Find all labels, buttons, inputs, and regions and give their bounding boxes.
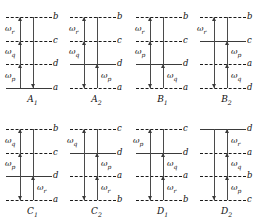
propagator-line-right: [33, 129, 34, 200]
energy-level-label-b: b: [53, 124, 58, 133]
panel-caption-b1: B1: [130, 94, 195, 106]
energy-level-label-d: d: [117, 148, 122, 157]
panel-caption-a1: A1: [0, 94, 65, 106]
frequency-label-omega-r: ωr: [37, 184, 46, 194]
omega-subscript: r: [44, 187, 47, 194]
energy-level-line-a: [70, 176, 116, 177]
arrowhead-up-left: [18, 41, 22, 45]
omega-subscript: p: [108, 75, 112, 82]
energy-level-line-b: [6, 17, 52, 18]
propagator-line-right: [97, 129, 98, 200]
energy-level-line-d: [70, 153, 116, 154]
propagator-line-right: [97, 17, 98, 88]
energy-level-label-b: b: [53, 12, 58, 21]
energy-level-label-a: a: [247, 148, 252, 157]
arrowhead-down-left: [212, 196, 216, 200]
energy-level-line-d: [6, 64, 52, 65]
energy-level-line-c: [6, 153, 52, 154]
energy-level-label-c: c: [117, 36, 122, 45]
caption-letter: B: [221, 94, 228, 104]
arrowhead-up-left: [18, 64, 22, 68]
frequency-label-omega-q: ωq: [67, 137, 77, 147]
frequency-label-omega-r: ωr: [167, 184, 176, 194]
caption-index: 2: [228, 99, 232, 106]
arrowhead-up-right: [95, 176, 99, 180]
energy-level-line-c: [200, 41, 246, 42]
arrowhead-down-left: [82, 84, 86, 88]
energy-level-line-d: [136, 153, 182, 154]
arrowhead-down-left: [148, 196, 152, 200]
frequency-label-omega-r: ωr: [231, 137, 240, 147]
energy-level-label-d: d: [247, 124, 252, 133]
propagator-line-left: [150, 129, 151, 200]
propagator-line-left: [214, 17, 215, 88]
energy-level-label-d: d: [53, 59, 58, 68]
energy-level-line-d: [6, 176, 52, 177]
energy-level-line-a: [70, 88, 116, 89]
omega-subscript: r: [108, 187, 111, 194]
omega-subscript: p: [12, 163, 16, 170]
energy-level-label-c: c: [53, 36, 58, 45]
frequency-label-omega-p: ωp: [101, 72, 111, 82]
energy-level-line-c: [136, 41, 182, 42]
arrowhead-up-right: [31, 176, 35, 180]
energy-level-line-c: [70, 41, 116, 42]
energy-level-line-d: [200, 88, 246, 89]
energy-level-label-b: b: [183, 195, 188, 204]
omega-subscript: p: [238, 187, 242, 194]
energy-level-label-a: a: [183, 83, 188, 92]
omega-subscript: p: [238, 51, 242, 58]
caption-index: 1: [34, 211, 38, 218]
energy-level-line-a: [136, 88, 182, 89]
diagram-panel-d2: dabcωrωqωpD2: [194, 112, 259, 223]
energy-level-label-b: b: [247, 171, 252, 180]
omega-subscript: q: [174, 75, 178, 82]
energy-level-label-b: b: [117, 195, 122, 204]
arrowhead-up-left: [148, 41, 152, 45]
energy-level-line-c: [200, 200, 246, 201]
arrowhead-up-right: [225, 64, 229, 68]
panel-caption-d2: D2: [194, 206, 259, 218]
omega-subscript: p: [108, 163, 112, 170]
frequency-label-omega-q: ωq: [231, 160, 241, 170]
propagator-line-left: [214, 129, 215, 200]
arrowhead-up-left: [18, 129, 22, 133]
propagator-line-right: [163, 17, 164, 88]
panel-caption-c2: C2: [64, 206, 129, 218]
caption-index: 2: [98, 99, 102, 106]
omega-subscript: r: [238, 140, 241, 147]
energy-level-line-b: [136, 17, 182, 18]
energy-level-label-d: d: [183, 59, 188, 68]
energy-level-line-a: [6, 200, 52, 201]
arrowhead-up-left: [82, 41, 86, 45]
frequency-label-omega-p: ωp: [231, 48, 241, 58]
energy-level-label-c: c: [53, 148, 58, 157]
propagator-line-right: [227, 17, 228, 88]
arrowhead-down-left: [18, 196, 22, 200]
frequency-label-omega-p: ωp: [135, 48, 145, 58]
arrowhead-up-left: [148, 17, 152, 21]
energy-level-line-a: [6, 88, 52, 89]
arrowhead-up-right: [161, 153, 165, 157]
omega-subscript: q: [12, 51, 16, 58]
caption-index: 1: [164, 211, 168, 218]
diagram-row-top: bcdaωrωqωpA1bcdaωrωqωpA2bcdaωrωpωqB1bcad…: [0, 0, 262, 111]
arrowhead-down-right: [31, 84, 35, 88]
energy-level-label-a: a: [247, 59, 252, 68]
arrowhead-up-right: [225, 176, 229, 180]
frequency-label-omega-q: ωq: [167, 160, 177, 170]
caption-index: 1: [34, 99, 38, 106]
omega-subscript: q: [238, 163, 242, 170]
diagram-panel-a2: bcdaωrωqωpA2: [64, 0, 129, 111]
caption-index: 2: [228, 211, 232, 218]
energy-level-line-a: [200, 153, 246, 154]
energy-level-line-b: [200, 17, 246, 18]
arrowhead-up-right: [225, 41, 229, 45]
arrowhead-up-left: [18, 17, 22, 21]
omega-subscript: p: [142, 51, 146, 58]
energy-level-label-c: c: [183, 124, 188, 133]
omega-subscript: p: [12, 75, 16, 82]
energy-level-label-c: c: [117, 124, 122, 133]
energy-level-line-a: [136, 176, 182, 177]
energy-level-line-b: [6, 129, 52, 130]
